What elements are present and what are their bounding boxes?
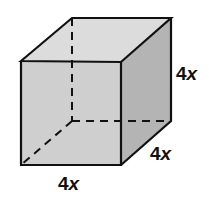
cube-diagram: 4x 4x 4x	[0, 0, 209, 199]
width-label: 4x	[58, 173, 81, 194]
depth-label: 4x	[150, 143, 173, 164]
height-label: 4x	[176, 63, 199, 84]
